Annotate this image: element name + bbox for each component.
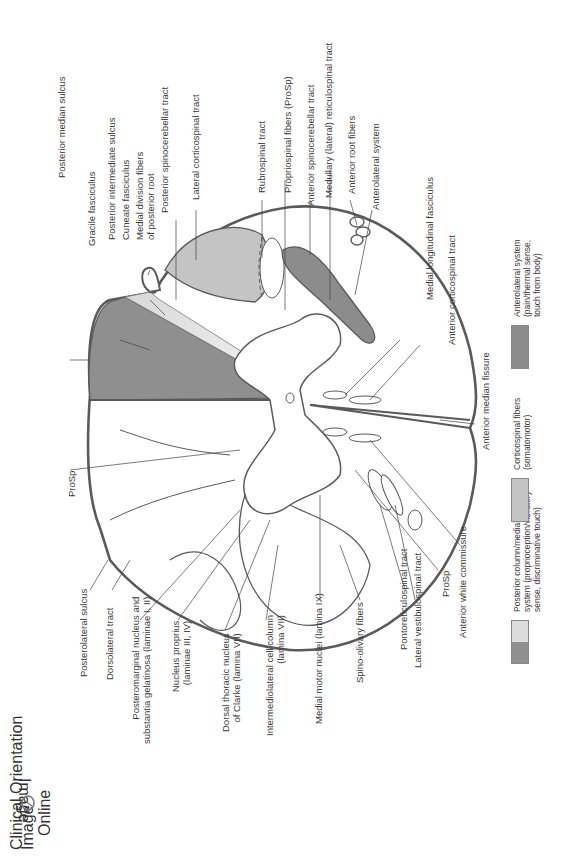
label-medullary-reticulospinal-tract: Medullary (lateral) reticulospinal tract xyxy=(323,43,334,198)
label-nucleus-proprius: Nucleus proprius (laminae III, IV) xyxy=(170,621,192,692)
label-posteromarginal-nucleus: Posteromarginal nucleus and substantia g… xyxy=(130,597,152,744)
diagram-canvas: Posterior median sulcus Gracile fascicul… xyxy=(0,0,574,859)
label-anterior-median-fissure: Anterior median fissure xyxy=(480,352,491,450)
logo-swirl-icon xyxy=(20,795,36,811)
label-spino-olivary-fibers: Spino-olivary fibers xyxy=(354,602,365,683)
posterior-root-bump xyxy=(142,268,160,292)
label-intermediolateral-cell-column: Intermediolateral cell column (lamina VI… xyxy=(264,615,286,736)
label-medial-longitudinal-fasciculus: Medial longitudinal fasciculus xyxy=(424,177,435,300)
label-lateral-vestibulospinal-tract: Lateral vestibulospinal tract xyxy=(412,553,423,668)
label-rubrospinal-tract: Rubrospinal tract xyxy=(256,121,267,193)
label-anterior-white-commissure: Anterior white commissure xyxy=(457,526,468,638)
logo-line-online: Online xyxy=(36,790,54,836)
label-anterior-corticospinal-tract: Anterior corticospinal tract xyxy=(446,235,457,345)
legend-text-corticospinal: Corticospinal fibers (somatomotor) xyxy=(512,398,532,470)
label-pontoreticulospinal-tract: Pontoreticulospinal tract xyxy=(398,549,409,650)
label-anterior-root-fibers: Anterior root fibers xyxy=(346,116,357,194)
label-posterior-median-sulcus: Posterior median sulcus xyxy=(56,77,67,178)
label-lateral-corticospinal-tract: Lateral corticospinal tract xyxy=(190,94,201,200)
label-dorsal-thoracic-nucleus: Dorsal thoracic nucleus of Clarke (lamin… xyxy=(220,633,242,732)
label-dorsolateral-tract: Dorsolateral tract xyxy=(104,608,115,680)
label-posterolateral-sulcus: Posterolateral sulcus xyxy=(78,589,89,677)
label-anterolateral-system: Anterolateral system xyxy=(370,123,381,210)
label-medial-motor-nuclei: Medial motor nuclei (lamina IX) xyxy=(313,593,324,724)
legend-text-anterolateral: Anterolateral system (pain/thermal sense… xyxy=(512,240,542,317)
label-medial-division-fibers: Medial division fibers of posterior root xyxy=(134,152,156,240)
label-prosp-left: ProSp xyxy=(66,471,77,497)
label-posterior-intermediate-sulcus: Posterior intermediate sulcus xyxy=(106,118,117,241)
legend-swatch-anterolateral xyxy=(511,325,529,369)
legend-swatch-corticospinal xyxy=(511,478,529,522)
label-anterior-spinocerebellar-tract: Anterior spinocerebellar tract xyxy=(305,85,316,206)
label-posterior-spinocerebellar-tract: Posterior spinocerebellar tract xyxy=(159,87,170,213)
label-cuneate-fasciculus: Cuneate fasciculus xyxy=(120,160,131,240)
label-propriospinal-fibers: Propriospinal fibers (ProSp) xyxy=(282,76,293,193)
legend-swatch-posterior-column xyxy=(511,620,529,664)
label-prosp-right: ProSp xyxy=(440,571,451,597)
label-gracile-fasciculus: Gracile fasciculus xyxy=(86,172,97,246)
